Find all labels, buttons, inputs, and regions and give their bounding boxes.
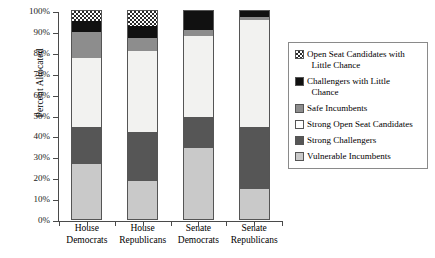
y-tick-label: 30% xyxy=(34,152,51,162)
legend-label: Vulnerable Incumbents xyxy=(307,151,391,162)
segment-strong-open-seat-candidates[interactable] xyxy=(71,58,102,127)
segment-strong-challengers[interactable] xyxy=(183,117,214,148)
chart-legend: Open Seat Candidates with Little ChanceC… xyxy=(288,42,428,169)
segment-challengers-little-chance[interactable] xyxy=(71,21,102,31)
segment-strong-challengers[interactable] xyxy=(127,132,158,181)
bar-house-republicans[interactable] xyxy=(127,11,158,220)
segment-strong-open-seat-candidates[interactable] xyxy=(127,51,158,133)
legend-label: Challengers with Little Chance xyxy=(307,76,390,98)
legend-item[interactable]: Challengers with Little Chance xyxy=(295,76,422,98)
segment-vulnerable-incumbents[interactable] xyxy=(239,189,270,220)
x-axis-label-senate-republicans: SenateRepublicans xyxy=(211,222,297,246)
x-axis-label-line1: House xyxy=(130,223,154,233)
bar-top-cap xyxy=(71,10,102,11)
legend-item[interactable]: Open Seat Candidates with Little Chance xyxy=(295,49,422,71)
y-tick: 100% xyxy=(53,12,59,13)
legend-label: Strong Open Seat Candidates xyxy=(307,119,413,130)
y-tick: 80% xyxy=(53,54,59,55)
y-tick: 40% xyxy=(53,137,59,138)
segment-safe-incumbents[interactable] xyxy=(127,38,158,51)
bar-senate-democrats[interactable] xyxy=(183,11,214,220)
legend-swatch-mid-gray-icon xyxy=(295,104,304,113)
segment-strong-challengers[interactable] xyxy=(71,127,102,164)
segment-vulnerable-incumbents[interactable] xyxy=(127,181,158,220)
y-tick: 20% xyxy=(53,179,59,180)
y-tick-label: 20% xyxy=(34,173,51,183)
legend-label: Open Seat Candidates with Little Chance xyxy=(307,49,405,71)
legend-swatch-black-icon xyxy=(295,77,304,86)
segment-challengers-little-chance[interactable] xyxy=(239,11,270,17)
bar-top-cap xyxy=(183,10,214,11)
segment-safe-incumbents[interactable] xyxy=(71,32,102,58)
y-tick: 70% xyxy=(53,75,59,76)
bar-house-democrats[interactable] xyxy=(71,11,102,220)
segment-strong-open-seat-candidates[interactable] xyxy=(239,20,270,127)
legend-swatch-white-icon xyxy=(295,120,304,129)
legend-item[interactable]: Safe Incumbents xyxy=(295,103,422,114)
y-tick-label: 10% xyxy=(34,194,51,204)
segment-safe-incumbents[interactable] xyxy=(183,30,214,36)
legend-item[interactable]: Strong Open Seat Candidates xyxy=(295,119,422,130)
y-tick-label: 40% xyxy=(34,131,51,141)
x-axis-label-line2: Republicans xyxy=(211,234,297,246)
y-tick: 30% xyxy=(53,158,59,159)
segment-open-seat-little-chance[interactable] xyxy=(71,11,102,21)
legend-item[interactable]: Strong Challengers xyxy=(295,135,422,146)
plot-area: 0%10%20%30%40%50%60%70%80%90%100% xyxy=(59,12,282,221)
y-tick-label: 90% xyxy=(34,27,51,37)
legend-swatch-checkerboard-icon xyxy=(295,50,304,59)
x-axis-label-line1: Senate xyxy=(241,223,266,233)
bar-top-cap xyxy=(239,10,270,11)
segment-vulnerable-incumbents[interactable] xyxy=(71,164,102,220)
y-tick-label: 50% xyxy=(34,111,51,121)
bar-senate-republicans[interactable] xyxy=(239,11,270,220)
y-tick-label: 70% xyxy=(34,69,51,79)
legend-swatch-light-gray-icon xyxy=(295,152,304,161)
y-tick-label: 100% xyxy=(29,6,50,16)
stacked-bar-chart: Percent Allocated 0%10%20%30%40%50%60%70… xyxy=(0,0,435,258)
legend-swatch-dark-gray-icon xyxy=(295,136,304,145)
x-axis-label-line1: Senate xyxy=(186,223,211,233)
legend-label: Safe Incumbents xyxy=(307,103,367,114)
y-tick: 90% xyxy=(53,33,59,34)
legend-item[interactable]: Vulnerable Incumbents xyxy=(295,151,422,162)
legend-label: Strong Challengers xyxy=(307,135,376,146)
segment-challengers-little-chance[interactable] xyxy=(183,11,214,30)
y-tick: 50% xyxy=(53,117,59,118)
segment-safe-incumbents[interactable] xyxy=(239,17,270,20)
segment-strong-challengers[interactable] xyxy=(239,127,270,189)
y-tick-label: 80% xyxy=(34,48,51,58)
segment-strong-open-seat-candidates[interactable] xyxy=(183,36,214,116)
x-axis-label-line1: House xyxy=(75,223,99,233)
segment-vulnerable-incumbents[interactable] xyxy=(183,148,214,220)
y-tick: 60% xyxy=(53,96,59,97)
segment-challengers-little-chance[interactable] xyxy=(127,26,158,39)
segment-open-seat-little-chance[interactable] xyxy=(127,11,158,26)
y-tick-label: 60% xyxy=(34,90,51,100)
bar-top-cap xyxy=(127,10,158,11)
y-tick: 10% xyxy=(53,200,59,201)
